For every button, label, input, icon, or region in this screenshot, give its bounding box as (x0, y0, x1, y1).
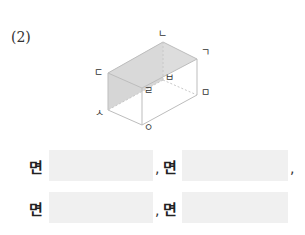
vertex-label: ㄷ (94, 68, 103, 78)
answer-box[interactable] (182, 150, 288, 181)
comma: , (155, 160, 159, 176)
face-word: 면 (163, 198, 177, 219)
vertex-label: ㄴ (158, 29, 167, 39)
vertex-label: ㅅ (95, 108, 104, 118)
rectangular-prism-figure (0, 0, 305, 140)
answer-box[interactable] (182, 192, 288, 223)
face-word: 면 (29, 198, 43, 219)
vertex-label: ㄱ (201, 48, 210, 58)
answer-box[interactable] (49, 192, 153, 223)
face-word: 면 (29, 156, 43, 177)
vertex-label: ㅂ (165, 73, 174, 83)
face-word: 면 (163, 156, 177, 177)
vertex-label: ㄹ (144, 86, 153, 96)
vertex-label: ㅁ (201, 88, 210, 98)
comma: , (155, 202, 159, 218)
vertex-label: ㅇ (144, 123, 153, 133)
answer-box[interactable] (49, 150, 153, 181)
comma: , (290, 160, 294, 176)
